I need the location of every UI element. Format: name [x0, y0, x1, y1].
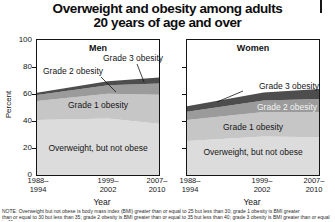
- figure: Overweight and obesity among adults 20 y…: [0, 0, 335, 221]
- y-axis-tickmark: [32, 94, 36, 95]
- men-x-tick-1988-line2: 1994: [16, 186, 60, 195]
- men-x-tick-1999-2002: 1999– 2002: [86, 177, 130, 194]
- women-panel: Women Grade 3 obesity Grade 2 obesity Gr…: [186, 39, 320, 176]
- y-tick-20: 20: [14, 143, 32, 152]
- women-panel-title: Women: [187, 43, 319, 53]
- footnote-line2: than or equal to 30 but less than 35; gr…: [2, 215, 333, 222]
- men-panel-title: Men: [37, 43, 159, 53]
- y-axis-tickmark: [182, 94, 186, 95]
- footnote: NOTE: Overweight but not obese is body m…: [2, 209, 333, 221]
- y-axis-tickmark: [182, 67, 186, 68]
- y-axis-tickmark: [182, 148, 186, 149]
- y-tick-40: 40: [14, 116, 32, 125]
- men-grade3-label: Grade 3 obesity: [103, 54, 163, 63]
- y-axis-tickmark: [32, 148, 36, 149]
- women-overweight-label: Overweight, but not obese: [187, 148, 319, 157]
- y-axis-tickmark: [32, 67, 36, 68]
- men-x-tick-1988-1994: 1988– 1994: [16, 177, 60, 194]
- women-x-tick-1999-2002: 1999– 2002: [240, 177, 284, 194]
- women-x-tick-1988-line2: 1994: [168, 186, 212, 195]
- chart-title: Overweight and obesity among adults 20 y…: [0, 2, 335, 30]
- men-grade2-label: Grade 2 obesity: [43, 67, 103, 76]
- chart-title-line2: 20 years of age and over: [0, 16, 335, 30]
- men-x-tick-1999-line2: 2002: [86, 186, 130, 195]
- men-panel: Men Grade 3 obesity Grade 2 obesity Grad…: [36, 39, 160, 176]
- men-overweight-label: Overweight, but not obese: [37, 144, 159, 153]
- men-x-axis-label: Year: [87, 197, 117, 207]
- y-tick-60: 60: [14, 89, 32, 98]
- women-x-axis-label: Year: [237, 197, 267, 207]
- women-x-tick-2007-2010: 2007– 2010: [292, 177, 335, 194]
- men-grade1-label: Grade 1 obesity: [37, 101, 159, 110]
- y-tick-80: 80: [14, 62, 32, 71]
- women-grade3-label: Grade 3 obesity: [259, 82, 319, 91]
- women-grade1-label: Grade 1 obesity: [187, 123, 319, 132]
- women-x-tick-2007-line2: 2010: [292, 186, 335, 195]
- y-axis-label: Percent: [4, 85, 13, 125]
- scan-artifact-mark: [320, 0, 322, 13]
- y-tick-100: 100: [14, 35, 32, 44]
- y-axis-tickmark: [182, 121, 186, 122]
- women-x-tick-1988-1994: 1988– 1994: [168, 177, 212, 194]
- chart-title-line1: Overweight and obesity among adults: [0, 2, 335, 16]
- women-x-tick-1999-line2: 2002: [240, 186, 284, 195]
- women-grade2-label: Grade 2 obesity: [257, 103, 317, 112]
- y-axis-tickmark: [32, 121, 36, 122]
